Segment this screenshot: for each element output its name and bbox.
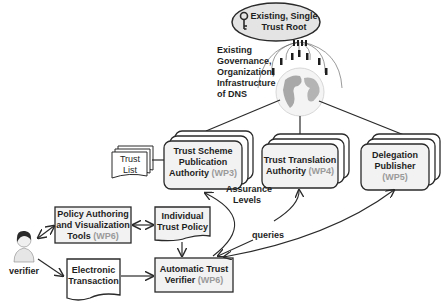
assurance-levels-label: Assurance Levels [226, 184, 276, 206]
pavt-label: Policy Authoring and Visualization Tools… [55, 209, 131, 242]
trust-list-label: TrustList [112, 154, 148, 176]
et-label: ElectronicTransaction [67, 265, 120, 287]
dp-label: Delegation Publisher (WP5) [361, 150, 429, 183]
atv-label: Automatic Trust Verifier (WP6) [155, 264, 233, 286]
tta-label: Trust Translation Authority (WP4) [262, 155, 338, 177]
trust-root-label: Existing, SingleTrust Root [248, 11, 320, 33]
person-icon [14, 231, 34, 262]
queries-label: queries [248, 230, 288, 241]
itp-label: IndividualTrust Policy [155, 211, 210, 233]
tspa-label: Trust Scheme Publication Authority (WP3) [164, 146, 242, 179]
verifier-label: verifier [4, 266, 44, 277]
governance-label: Existing Governance, Organization, Infra… [217, 45, 287, 100]
